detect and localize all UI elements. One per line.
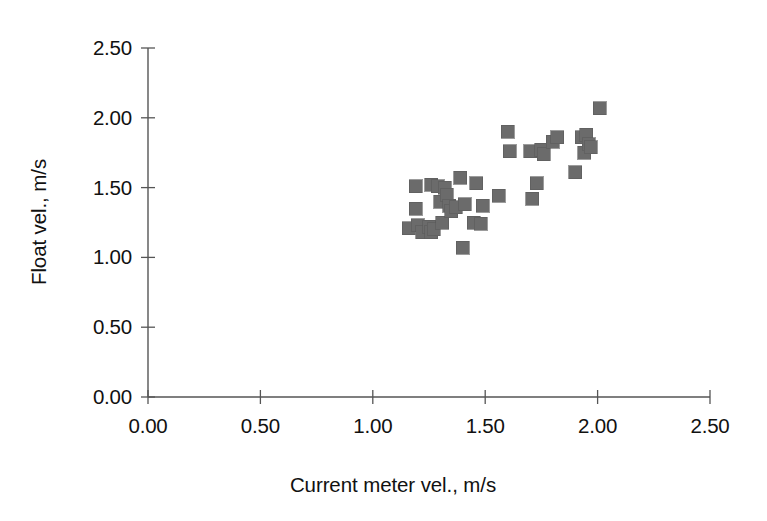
x-tick-label: 0.00 [128,414,167,437]
y-tick-label: 1.00 [93,245,132,268]
x-tick-label: 1.00 [353,414,392,437]
plot-canvas: 0.000.501.001.502.002.50 0.000.501.001.5… [0,0,767,521]
data-point-marker [456,241,469,254]
y-tick-labels: 0.000.501.001.502.002.50 [93,36,132,408]
x-tick-label: 2.50 [690,414,729,437]
data-point-marker [470,177,483,190]
data-point-marker [458,198,471,211]
data-points [402,102,606,255]
data-point-marker [569,166,582,179]
data-point-marker [530,177,543,190]
x-tick-labels: 0.000.501.001.502.002.50 [128,414,729,437]
y-axis-title: Float vel., m/s [27,159,50,285]
data-point-marker [503,145,516,158]
data-point-marker [584,141,597,154]
y-tick-label: 2.50 [93,36,132,59]
y-tick-label: 1.50 [93,176,132,199]
data-point-marker [409,202,422,215]
data-point-marker [593,102,606,115]
data-point-marker [454,171,467,184]
data-point-marker [474,217,487,230]
x-tick-label: 0.50 [241,414,280,437]
y-tick-label: 2.00 [93,106,132,129]
y-tick-label: 0.50 [93,315,132,338]
scatter-chart: 0.000.501.001.502.002.50 0.000.501.001.5… [0,0,767,521]
data-point-marker [476,199,489,212]
data-point-marker [501,125,514,138]
data-point-marker [551,131,564,144]
x-tick-label: 2.00 [578,414,617,437]
data-point-marker [537,148,550,161]
x-tick-label: 1.50 [466,414,505,437]
data-point-marker [409,180,422,193]
data-point-marker [526,192,539,205]
x-axis-title: Current meter vel., m/s [290,473,496,496]
y-tick-label: 0.00 [93,385,132,408]
data-point-marker [492,189,505,202]
